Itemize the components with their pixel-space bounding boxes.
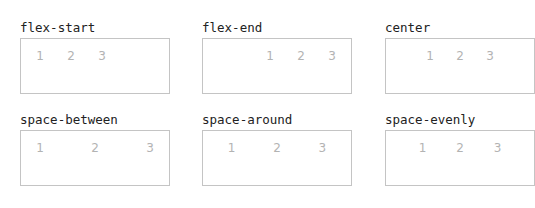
flex-item: 2: [270, 140, 284, 156]
flex-item: 3: [95, 48, 109, 64]
flex-item: 2: [453, 140, 467, 156]
flex-item: 1: [33, 140, 47, 156]
demo-flex-end: flex-end 1 2 3: [202, 20, 352, 94]
demo-space-around: space-around 1 2 3: [202, 112, 352, 186]
flex-item: 2: [453, 48, 467, 64]
flex-item: 1: [33, 48, 47, 64]
demo-flex-start: flex-start 1 2 3: [20, 20, 170, 94]
demo-space-between: space-between 1 2 3: [20, 112, 170, 186]
demo-label: center: [385, 20, 535, 36]
flex-item: 1: [423, 48, 437, 64]
flex-item: 2: [294, 48, 308, 64]
flex-item: 3: [143, 140, 157, 156]
flex-item: 3: [491, 140, 505, 156]
flex-item: 1: [263, 48, 277, 64]
demo-center: center 1 2 3: [385, 20, 535, 94]
flex-container: 1 2 3: [385, 38, 535, 94]
demo-space-evenly: space-evenly 1 2 3: [385, 112, 535, 186]
flex-container: 1 2 3: [20, 38, 170, 94]
flex-item: 2: [88, 140, 102, 156]
flex-item: 3: [325, 48, 339, 64]
flex-item: 3: [483, 48, 497, 64]
flex-item: 1: [225, 140, 239, 156]
flex-item: 1: [416, 140, 430, 156]
flex-container: 1 2 3: [385, 130, 535, 186]
demo-label: flex-end: [202, 20, 352, 36]
flex-container: 1 2 3: [20, 130, 170, 186]
demo-label: space-between: [20, 112, 170, 128]
demo-label: space-evenly: [385, 112, 535, 128]
demo-label: space-around: [202, 112, 352, 128]
flex-item: 2: [64, 48, 78, 64]
flex-container: 1 2 3: [202, 130, 352, 186]
flex-item: 3: [315, 140, 329, 156]
demo-label: flex-start: [20, 20, 170, 36]
flex-container: 1 2 3: [202, 38, 352, 94]
